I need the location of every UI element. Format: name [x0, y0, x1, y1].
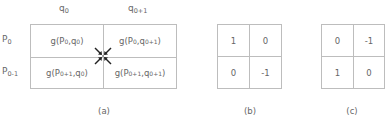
- grid-c: 0 -1 1 0: [321, 24, 385, 89]
- cell-sub: 0+1: [129, 70, 142, 77]
- cell-b-1-1: -1: [250, 57, 281, 88]
- cell-text: ): [85, 68, 88, 78]
- grid-b: 1 0 0 -1: [217, 24, 282, 89]
- cell-a-1-1: g(P0+1,q0+1): [104, 58, 176, 88]
- cell-c-0-1: -1: [354, 25, 384, 56]
- cell-sub: 0+1: [145, 38, 158, 45]
- cell-text: g(P: [51, 36, 65, 46]
- cell-text: ,q: [137, 36, 145, 46]
- cell-c-0-0: 0: [322, 25, 353, 56]
- row-header-p0minus1: P0-1: [2, 66, 18, 78]
- row-header-p0minus1-sub: 0-1: [7, 70, 18, 78]
- caption-b: (b): [244, 106, 256, 116]
- converging-arrows-icon: [93, 46, 113, 66]
- cell-text: ): [158, 36, 161, 46]
- col-header-q0plus1: q0+1: [128, 3, 147, 15]
- cell-c-1-0: 1: [322, 57, 353, 88]
- cell-text: g(P: [115, 68, 129, 78]
- row-header-p0-sub: 0: [7, 38, 11, 46]
- cell-text: g(P: [46, 68, 60, 78]
- col-header-q0-sub: 0: [65, 7, 69, 15]
- row-header-p0: P0: [2, 34, 12, 46]
- cell-sub: 0+1: [149, 70, 162, 77]
- cell-text: ): [80, 36, 83, 46]
- cell-b-0-0: 1: [218, 25, 249, 56]
- cell-text: ): [162, 68, 165, 78]
- caption-a: (a): [98, 106, 110, 116]
- cell-b-1-0: 0: [218, 57, 249, 88]
- cell-text: g(P: [119, 36, 133, 46]
- cell-text: ,q: [68, 36, 76, 46]
- cell-text: ,q: [141, 68, 149, 78]
- cell-c-1-1: 0: [354, 57, 384, 88]
- col-header-q0: q0: [59, 3, 69, 15]
- col-header-q0plus1-sub: 0+1: [134, 7, 148, 15]
- cell-a-0-1: g(P0,q0+1): [104, 25, 176, 57]
- cell-sub: 0+1: [60, 70, 73, 77]
- cell-text: ,q: [73, 68, 81, 78]
- caption-c: (c): [346, 106, 357, 116]
- cell-b-0-1: 0: [250, 25, 281, 56]
